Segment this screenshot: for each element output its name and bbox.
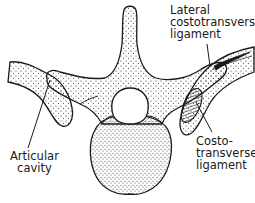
- vertebral-body: [90, 116, 171, 195]
- label-lateral-costotransverse-ligament: Lateral costotransverse ligament: [170, 4, 255, 40]
- leader-lateral-costotransverse: [207, 44, 210, 66]
- label-costotransverse-ligament: Costo- transverse ligament: [196, 135, 255, 171]
- vertebral-foramen: [112, 88, 149, 124]
- label-articular-cavity: Articular cavity: [10, 150, 59, 174]
- vertebra-diagram: Lateral costotransverse ligament Articul…: [0, 0, 255, 203]
- label-line: cavity: [10, 162, 59, 174]
- label-line: ligament: [170, 28, 255, 40]
- label-line: ligament: [196, 159, 255, 171]
